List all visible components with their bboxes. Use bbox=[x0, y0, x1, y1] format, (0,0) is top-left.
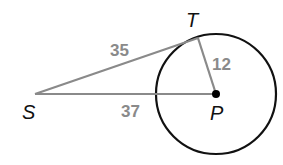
diagram-canvas: S T P 35 37 12 bbox=[0, 0, 283, 165]
point-label-s: S bbox=[22, 101, 36, 123]
center-point-p bbox=[212, 90, 220, 98]
length-label-st: 35 bbox=[110, 41, 129, 60]
length-label-tp: 12 bbox=[212, 55, 231, 74]
point-label-p: P bbox=[210, 102, 224, 124]
point-label-t: T bbox=[186, 9, 200, 31]
geometry-diagram: S T P 35 37 12 bbox=[0, 0, 283, 165]
length-label-sp: 37 bbox=[121, 102, 140, 121]
